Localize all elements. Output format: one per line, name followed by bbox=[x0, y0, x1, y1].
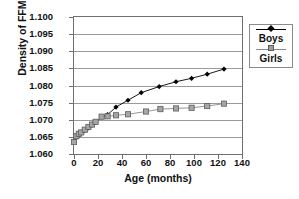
diamond-marker-icon bbox=[189, 76, 194, 81]
square-marker-icon bbox=[113, 113, 118, 118]
diamond-marker-icon bbox=[173, 79, 178, 84]
x-axis-label: Age (months) bbox=[73, 172, 243, 184]
square-marker-icon bbox=[189, 105, 194, 110]
legend-label-boys: Boys bbox=[252, 33, 290, 44]
legend-label-girls: Girls bbox=[252, 53, 290, 64]
square-marker-icon bbox=[173, 106, 178, 111]
square-marker-icon bbox=[143, 109, 148, 114]
diamond-marker-icon bbox=[205, 72, 210, 77]
square-marker-icon bbox=[268, 45, 274, 51]
diamond-marker-icon bbox=[157, 84, 162, 89]
y-axis-tick-label: 1.075 bbox=[9, 98, 53, 108]
y-axis-tick-label: 1.080 bbox=[9, 81, 53, 91]
data-series-layer bbox=[74, 17, 242, 154]
diamond-marker-icon bbox=[221, 66, 226, 71]
y-axis-tick-label: 1.085 bbox=[9, 63, 53, 73]
chart-figure: Density of FFM (g/cm3) 1.0601.0651.0701.… bbox=[0, 0, 299, 199]
y-axis-tick-label: 1.100 bbox=[9, 12, 53, 22]
series-boys bbox=[71, 66, 226, 143]
legend-sample-boys bbox=[252, 26, 290, 33]
y-axis-tick-label: 1.070 bbox=[9, 115, 53, 125]
square-marker-icon bbox=[221, 101, 226, 106]
x-axis-tick-label: 140 bbox=[227, 158, 257, 168]
y-axis-tick-label: 1.095 bbox=[9, 29, 53, 39]
legend-item-girls: Girls bbox=[252, 46, 290, 66]
square-marker-icon bbox=[93, 119, 98, 124]
y-axis-tick-label: 1.065 bbox=[9, 132, 53, 142]
legend-sample-girls bbox=[252, 46, 290, 53]
diamond-marker-icon bbox=[125, 98, 130, 103]
y-axis-tick-label: 1.090 bbox=[9, 46, 53, 56]
y-axis-tick-label: 1.060 bbox=[9, 149, 53, 159]
square-marker-icon bbox=[125, 112, 130, 117]
plot-area bbox=[73, 16, 243, 155]
square-marker-icon bbox=[205, 103, 210, 108]
diamond-marker-icon bbox=[139, 90, 144, 95]
series-girls bbox=[71, 101, 226, 145]
diamond-marker-icon bbox=[267, 25, 274, 32]
square-marker-icon bbox=[71, 139, 76, 144]
square-marker-icon bbox=[158, 107, 163, 112]
series-line bbox=[74, 69, 224, 141]
legend-item-boys: Boys bbox=[252, 26, 290, 46]
square-marker-icon bbox=[99, 114, 104, 119]
square-marker-icon bbox=[105, 114, 110, 119]
chart-legend: Boys Girls bbox=[249, 24, 293, 68]
